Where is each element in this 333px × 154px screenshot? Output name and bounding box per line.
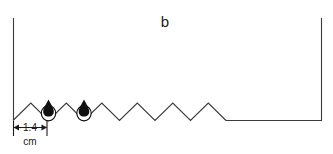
dimension-arrow-left (14, 125, 20, 131)
figure-canvas: b 1.4 cm (0, 0, 333, 154)
figure-panel-b: b 1.4 cm (0, 0, 333, 154)
dimension-arrow-right (42, 125, 48, 131)
panel-label: b (161, 13, 169, 30)
droplet-1-cap (43, 100, 54, 117)
droplet-2-cap (79, 100, 90, 117)
dimension-unit-label: cm (23, 136, 36, 147)
droplet-icon-1 (41, 100, 55, 121)
droplet-icon-2 (77, 100, 91, 121)
dimension-value-label: 1.4 (23, 122, 37, 133)
